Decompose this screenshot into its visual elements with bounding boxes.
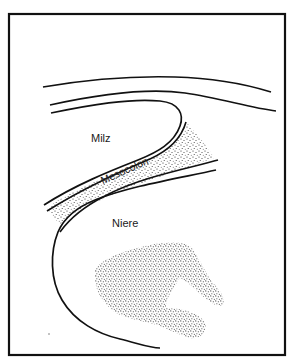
speck xyxy=(48,333,50,335)
kidney-label: Niere xyxy=(112,218,138,229)
spleen-label: Milz xyxy=(91,133,111,144)
upper-wall-line-outer xyxy=(43,77,271,92)
anatomy-diagram xyxy=(0,0,293,363)
kidney-stipple xyxy=(95,242,224,338)
